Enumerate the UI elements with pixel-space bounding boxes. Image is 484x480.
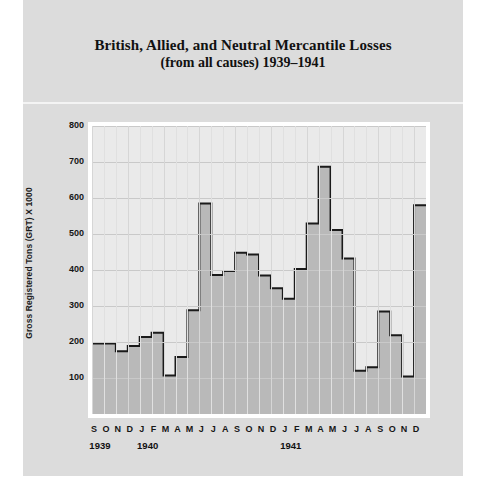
gridline-vertical [116, 126, 117, 414]
plot-area [92, 126, 426, 414]
gridline-vertical [354, 126, 355, 414]
y-axis-tick-200: 200 [48, 336, 84, 346]
title-block: British, Allied, and Neutral Mercantile … [23, 36, 463, 71]
x-axis-year-1939: 1939 [80, 440, 120, 451]
chart-page: British, Allied, and Neutral Mercantile … [0, 0, 484, 480]
gridline-vertical [187, 126, 188, 414]
gridline-vertical [211, 126, 212, 414]
gridline-vertical [199, 126, 200, 414]
y-axis-tick-400: 400 [48, 264, 84, 274]
x-axis-year-1941: 1941 [271, 440, 311, 451]
x-axis-month-labels: SONDJFMAMJJASONDJFMAMJJASOND [88, 424, 430, 440]
page-subtitle: (from all causes) 1939–1941 [23, 54, 463, 71]
gridline-vertical [223, 126, 224, 414]
x-axis-year-labels: 193919401941 [88, 440, 430, 456]
gridline-vertical [414, 126, 415, 414]
y-axis-tick-300: 300 [48, 300, 84, 310]
gridline-vertical [366, 126, 367, 414]
x-axis-tick-label: D [409, 424, 423, 434]
gridline-vertical [104, 126, 105, 414]
gridline-vertical [343, 126, 344, 414]
gridline-vertical [319, 126, 320, 414]
x-axis-year-1940: 1940 [128, 440, 168, 451]
gridline-vertical [283, 126, 284, 414]
y-axis-tick-600: 600 [48, 192, 84, 202]
y-axis-tick-100: 100 [48, 372, 84, 382]
gridline-vertical [378, 126, 379, 414]
y-axis-tick-700: 700 [48, 156, 84, 166]
gridline-vertical [247, 126, 248, 414]
gridline-vertical [271, 126, 272, 414]
plot-frame [88, 122, 430, 418]
y-axis-title: Gross Registered Tons (GRT) X 1000 [24, 178, 34, 348]
y-axis-tick-500: 500 [48, 228, 84, 238]
gridline-vertical [307, 126, 308, 414]
gridline-vertical [140, 126, 141, 414]
gridline-vertical [128, 126, 129, 414]
gridline-vertical [390, 126, 391, 414]
page-title: British, Allied, and Neutral Mercantile … [23, 36, 463, 54]
gridline-vertical [295, 126, 296, 414]
gridline-vertical [92, 126, 93, 414]
gridline-vertical [259, 126, 260, 414]
gridline-vertical [176, 126, 177, 414]
gridline-vertical [402, 126, 403, 414]
gridline-vertical [152, 126, 153, 414]
title-divider [23, 102, 463, 104]
y-axis-tick-800: 800 [48, 120, 84, 130]
y-axis-tick-labels: 100200300400500600700800 [46, 0, 84, 480]
gridline-vertical [331, 126, 332, 414]
gridline-vertical [164, 126, 165, 414]
gridline-vertical [235, 126, 236, 414]
